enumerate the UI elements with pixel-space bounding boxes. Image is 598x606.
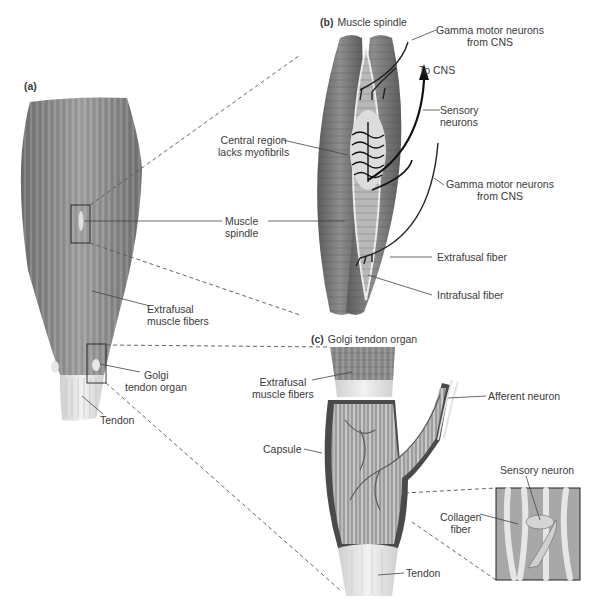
panel-b-title: (b)Muscle spindle — [320, 16, 407, 28]
anatomy-diagram — [0, 0, 598, 606]
label-extrafusal-fiber: Extrafusal fiber — [437, 251, 507, 263]
muscle-spindle-illustration — [317, 35, 438, 315]
whole-muscle-illustration — [21, 98, 142, 421]
label-gamma-motor-top: Gamma motor neuronsfrom CNS — [436, 24, 544, 48]
label-central-region: Central regionlacks myofibrils — [218, 134, 289, 158]
label-extrafusal-muscle-fibers-a: Extrafusalmuscle fibers — [147, 303, 209, 327]
label-sensory-neuron: Sensory neuron — [500, 464, 574, 476]
label-muscle-spindle-a: Musclespindle — [225, 215, 258, 239]
label-to-cns: To CNS — [419, 64, 455, 76]
label-capsule: Capsule — [263, 443, 302, 455]
label-sensory-neurons: Sensoryneurons — [440, 104, 479, 128]
label-intrafusal-fiber: Intrafusal fiber — [437, 289, 504, 301]
label-afferent-neuron: Afferent neuron — [488, 390, 560, 402]
label-collagen-fiber: Collagenfiber — [440, 511, 481, 535]
golgi-tendon-organ-illustration — [325, 347, 458, 596]
label-golgi-tendon-organ-a: Golgitendon organ — [125, 369, 187, 393]
panel-c-title: (c)Golgi tendon organ — [311, 333, 417, 345]
label-tendon-a: Tendon — [100, 414, 134, 426]
label-extrafusal-muscle-fibers-c: Extrafusalmuscle fibers — [252, 376, 314, 400]
label-gamma-motor-bottom: Gamma motor neuronsfrom CNS — [446, 178, 554, 202]
label-tendon-c: Tendon — [406, 567, 440, 579]
panel-a-label: (a) — [24, 80, 41, 92]
collagen-inset-illustration — [496, 488, 580, 580]
